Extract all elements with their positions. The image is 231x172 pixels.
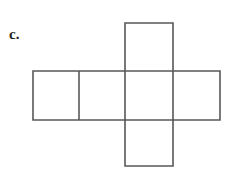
cube-net-diagram xyxy=(0,0,231,172)
cube-net-svg xyxy=(0,0,231,172)
figure-canvas: c. xyxy=(0,0,231,172)
vertical-strip-outline xyxy=(125,23,173,166)
